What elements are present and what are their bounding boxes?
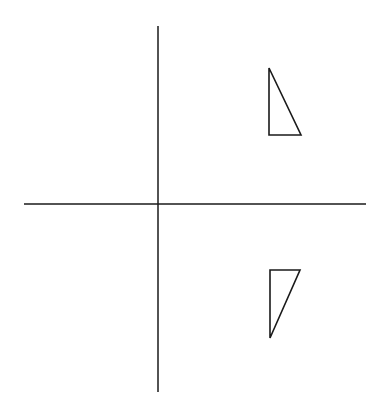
- triangle-reflected: [270, 270, 300, 338]
- triangle-original: [269, 68, 301, 135]
- diagram-canvas: [0, 0, 384, 404]
